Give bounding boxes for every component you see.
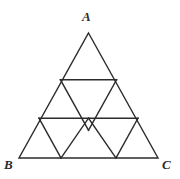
vertex-label-a: A (82, 10, 91, 23)
geometry-figure: A B C (0, 0, 180, 179)
segment-right-parallel-upper (89, 80, 117, 131)
segment-center-right-down (89, 118, 117, 158)
vertex-label-c: C (162, 158, 171, 171)
segment-left-parallel-lower (39, 118, 61, 158)
interior-segments-group (39, 80, 138, 158)
triangle-diagram (0, 0, 180, 179)
vertex-label-b: B (4, 158, 13, 171)
segment-right-parallel-lower (116, 118, 138, 158)
segment-left-parallel-upper (60, 80, 88, 131)
segment-center-left-down (61, 118, 89, 158)
outer-triangle-path (19, 33, 158, 158)
